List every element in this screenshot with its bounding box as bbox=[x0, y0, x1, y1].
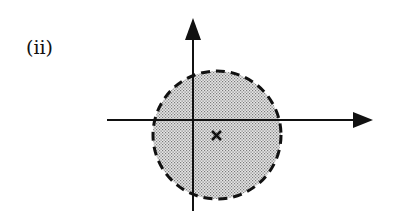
diagram bbox=[0, 0, 402, 211]
x-axis-arrow-icon bbox=[353, 112, 373, 128]
y-axis-arrow-icon bbox=[185, 18, 201, 40]
